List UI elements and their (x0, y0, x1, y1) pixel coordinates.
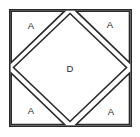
geometric-figure-container: A A A A D (0, 0, 140, 137)
label-corner-bottom-left: A (28, 105, 35, 116)
geometric-figure-svg: A A A A D (0, 0, 140, 137)
label-corner-bottom-right: A (108, 106, 115, 117)
label-corner-top-left: A (28, 20, 35, 31)
label-corner-top-right: A (107, 19, 114, 30)
label-center-diamond: D (67, 63, 74, 74)
